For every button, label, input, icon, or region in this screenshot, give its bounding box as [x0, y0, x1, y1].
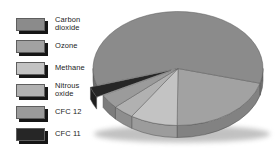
greenhouse-gas-pie-figure: Carbon dioxideOzoneMethaneNitrous oxideC… — [0, 0, 279, 149]
pie-chart-3d — [0, 0, 279, 149]
